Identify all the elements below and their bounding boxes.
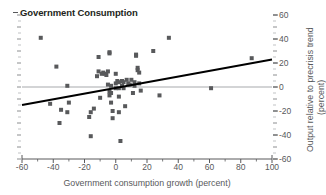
x-tick-label: 60 [205,162,214,172]
axis-spines [22,155,272,159]
y-axis-major-ticks [273,15,278,159]
y-axis-title-line2: (percent) [316,80,326,115]
x-tick-label: 40 [174,162,183,172]
x-tick-label: -60 [16,162,28,172]
x-axis-title: Government consumption growth (percent) [22,178,272,188]
y-tick-label: -40 [279,130,291,140]
x-tick-label: 0 [113,162,118,172]
x-tick-label: -40 [47,162,59,172]
y-tick-label: 40 [279,34,288,44]
y-tick-label: 0 [279,82,284,92]
y-tick-label: 20 [279,58,288,68]
y-tick-label: -60 [279,154,291,164]
x-tick-label: -20 [78,162,90,172]
data-point-markers [39,36,254,143]
y-tick-label: -20 [279,106,291,116]
x-tick-label: 20 [142,162,151,172]
x-tick-label: 80 [236,162,245,172]
y-tick-label: 60 [279,10,288,20]
x-tick-label: 100 [265,162,279,172]
trendline [22,59,272,105]
y-axis-minor-ticks-left [17,15,21,159]
y-axis-title-line1: Output relative to precrisis trend [305,27,315,152]
